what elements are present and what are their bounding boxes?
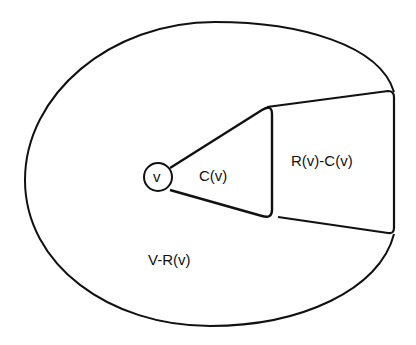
complement-label: V-R(v) [148,252,191,267]
reachable-minus-cone-label: R(v)-C(v) [291,153,353,168]
cone-C [170,108,272,217]
vertex-label: v [153,169,161,184]
cone-label: C(v) [199,168,227,183]
